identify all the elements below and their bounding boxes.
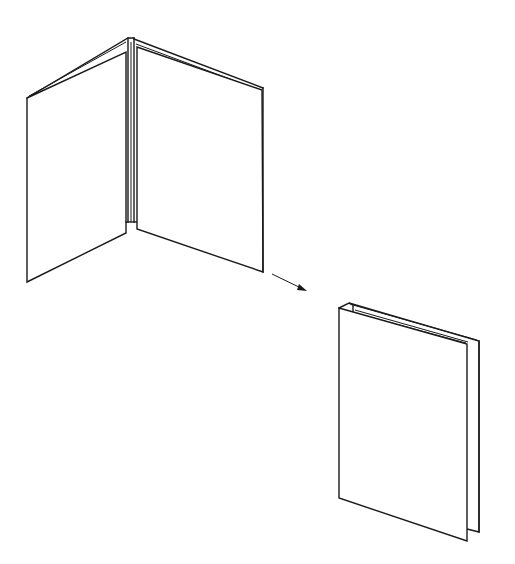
open-booklet — [27, 38, 263, 282]
transition-arrow — [272, 274, 307, 291]
closed-booklet — [339, 303, 479, 541]
front-cover — [339, 308, 467, 541]
diagram-canvas — [0, 0, 515, 564]
left-page — [27, 52, 126, 282]
arrow-head-icon — [297, 284, 307, 291]
